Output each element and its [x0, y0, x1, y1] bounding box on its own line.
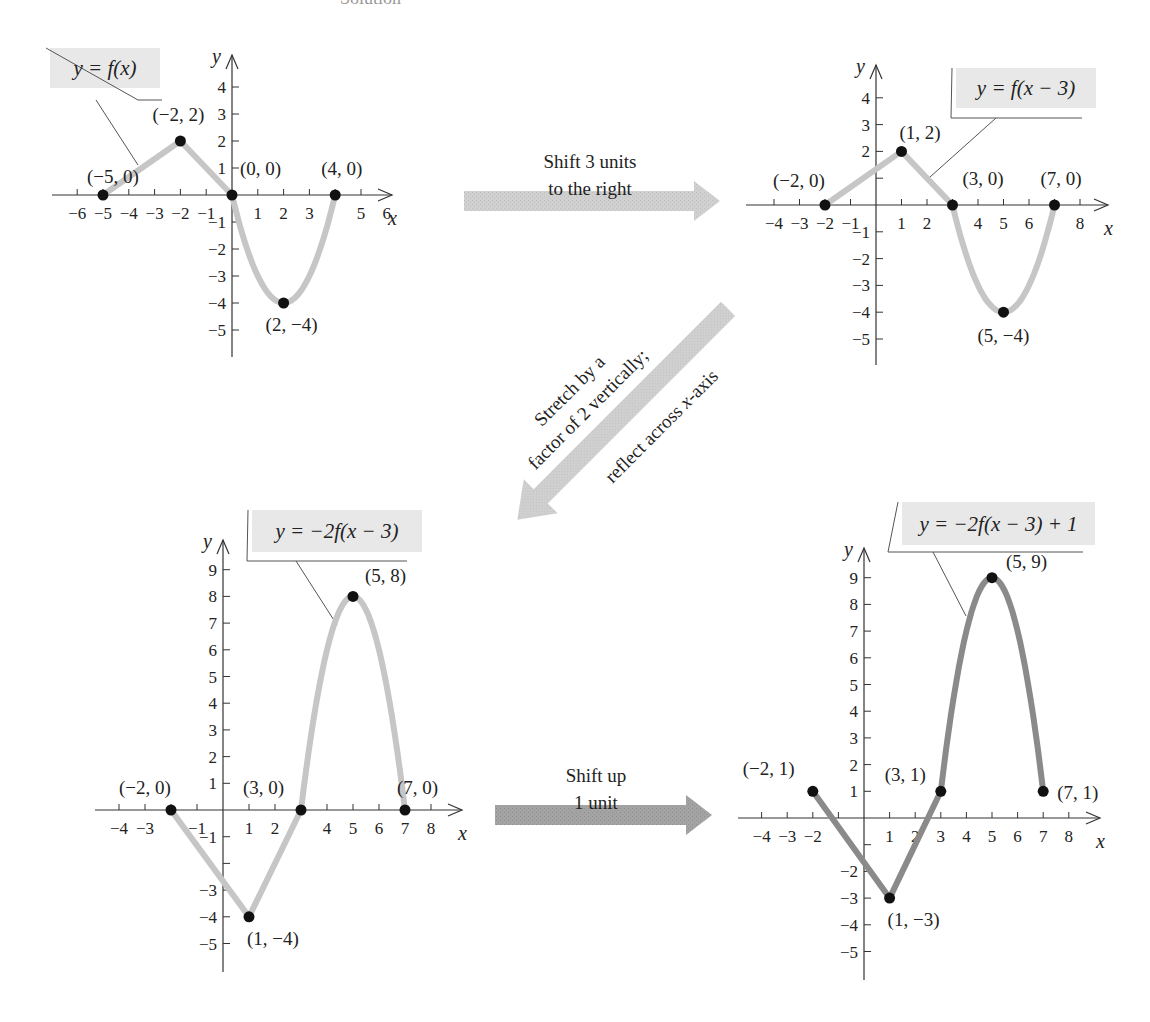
x-tick-label: 2 [279, 204, 288, 223]
x-tick-label: 7 [401, 819, 410, 838]
y-tick-label: 3 [218, 105, 227, 124]
leader-line [933, 552, 966, 616]
x-axis-label: x [457, 822, 467, 844]
x-tick-label: 1 [885, 827, 894, 846]
x-tick-label: 7 [1039, 827, 1048, 846]
x-tick-label: −6 [68, 204, 86, 223]
y-tick-label: −3 [840, 889, 858, 908]
y-tick-label: 3 [209, 721, 218, 740]
point-label: (5, 8) [365, 565, 406, 587]
x-tick-label: 5 [349, 819, 358, 838]
y-tick-label: 2 [850, 756, 859, 775]
point-label: (−2, 0) [773, 170, 825, 192]
point-label: (5, 9) [1006, 551, 1047, 573]
key-point [935, 786, 946, 797]
key-point [278, 298, 289, 309]
key-point [175, 136, 186, 147]
point-label: (5, −4) [978, 325, 1030, 347]
x-tick-label: −2 [171, 204, 189, 223]
key-point [807, 786, 818, 797]
y-tick-label: −5 [840, 943, 858, 962]
shift-up-arrow-icon: Shift up1 unit [495, 765, 712, 835]
y-tick-label: −3 [852, 276, 870, 295]
x-axis-label: x [1103, 217, 1113, 239]
x-tick-label: −2 [804, 827, 822, 846]
shift-right-arrow-icon: Shift 3 unitsto the right [464, 151, 720, 221]
point-label: (0, 0) [240, 158, 281, 180]
x-tick-label: 5 [999, 214, 1008, 233]
y-tick-label: 2 [218, 132, 227, 151]
x-tick-label: 2 [271, 819, 280, 838]
key-point [820, 200, 831, 211]
y-axis-label: y [210, 45, 221, 68]
point-label: (−2, 1) [743, 758, 795, 780]
x-tick-label: 8 [1076, 214, 1085, 233]
function-curve [171, 596, 405, 916]
x-tick-label: 6 [383, 204, 392, 223]
y-tick-label: 3 [862, 116, 871, 135]
equation-label: y = f(x − 3) [975, 76, 1075, 100]
x-tick-label: 5 [988, 827, 997, 846]
key-point [98, 190, 109, 201]
x-axis-label: x [1095, 830, 1105, 852]
y-tick-label: −1 [199, 828, 217, 847]
graph-4: y = −2f(x − 3) + 1xy−4−3−212345678987654… [738, 502, 1105, 980]
y-tick-label: 1 [850, 782, 859, 801]
x-tick-label: 4 [974, 214, 983, 233]
y-tick-label: −4 [199, 908, 218, 927]
x-tick-label: 1 [245, 819, 254, 838]
point-label: (3, 0) [963, 168, 1004, 190]
equation-label: y = −2f(x − 3) + 1 [917, 512, 1077, 536]
y-tick-label: 2 [209, 748, 218, 767]
y-tick-label: 8 [850, 595, 859, 614]
y-tick-label: 3 [850, 729, 859, 748]
y-tick-label: −4 [852, 303, 871, 322]
point-label: (4, 0) [321, 158, 362, 180]
y-tick-label: 9 [850, 569, 859, 588]
x-tick-label: 3 [305, 204, 314, 223]
point-label: (1, −3) [888, 909, 940, 931]
x-tick-label: 8 [1065, 827, 1074, 846]
x-tick-label: 1 [897, 214, 906, 233]
y-axis-label: y [842, 538, 853, 561]
y-tick-label: −2 [208, 240, 226, 259]
arrow-caption: to the right [548, 178, 632, 199]
x-tick-label: 2 [923, 214, 932, 233]
x-tick-label: −3 [778, 827, 796, 846]
point-label: (1, −4) [247, 928, 299, 950]
x-tick-label: −3 [146, 204, 164, 223]
graph-2: y = f(x − 3)xy−4−3−2−1124568432−1−2−3−4−… [746, 55, 1113, 365]
x-tick-label: −4 [753, 827, 772, 846]
x-tick-label: 1 [254, 204, 263, 223]
x-tick-label: 4 [323, 819, 332, 838]
y-tick-label: −5 [199, 935, 217, 954]
y-tick-label: −2 [852, 250, 870, 269]
key-point [244, 911, 255, 922]
point-label: (1, 2) [900, 122, 941, 144]
x-tick-label: 4 [962, 827, 971, 846]
y-tick-label: −4 [208, 294, 227, 313]
point-label: (−5, 0) [87, 166, 139, 188]
y-tick-label: 6 [850, 649, 859, 668]
y-tick-label: −3 [199, 881, 217, 900]
y-axis-label: y [201, 530, 212, 553]
key-point [998, 307, 1009, 318]
key-point [296, 805, 307, 816]
arrow-caption: Shift 3 units [544, 151, 637, 172]
x-tick-label: −2 [816, 214, 834, 233]
point-label: (7, 0) [397, 777, 438, 799]
key-point [166, 805, 177, 816]
point-label: (3, 0) [243, 777, 284, 799]
y-tick-label: 9 [209, 561, 218, 580]
key-point [400, 805, 411, 816]
key-point [330, 190, 341, 201]
graph-1: y = f(x)xy−6−5−4−3−2−1123564321−1−2−3−4−… [46, 45, 397, 357]
key-point [1038, 786, 1049, 797]
x-tick-label: 5 [357, 204, 366, 223]
key-point [987, 572, 998, 583]
x-tick-label: −4 [120, 204, 139, 223]
y-axis-label: y [854, 55, 865, 78]
equation-label: y = f(x) [71, 56, 136, 80]
x-tick-label: −4 [765, 214, 784, 233]
y-tick-label: −3 [208, 267, 226, 286]
